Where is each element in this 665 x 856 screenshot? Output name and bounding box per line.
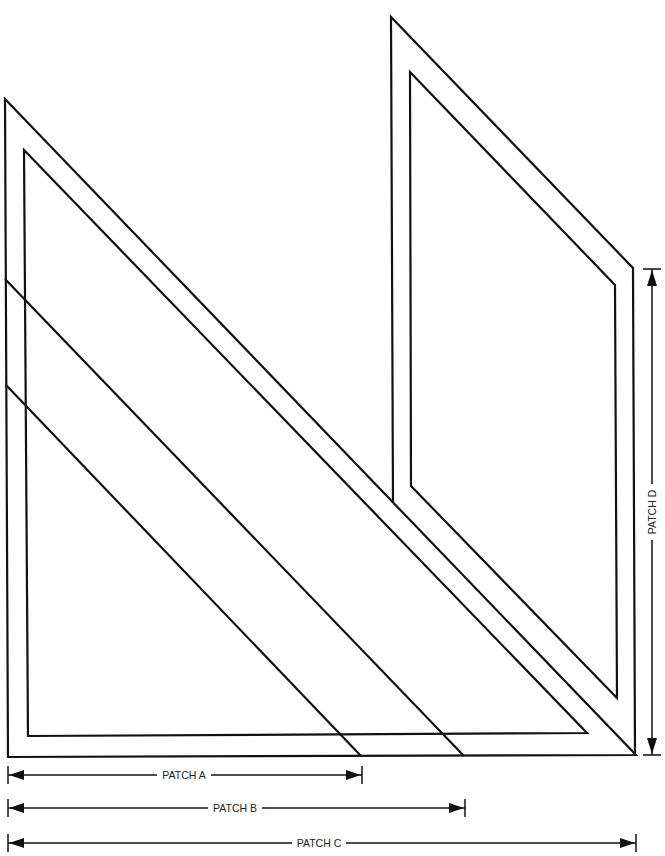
arrow-left-icon bbox=[9, 770, 24, 780]
patch-a-dimension: PATCH A bbox=[8, 766, 362, 784]
arrow-right-icon bbox=[346, 770, 361, 780]
patch-template-diagram: PATCH A PATCH B PATCH C PATCH D bbox=[0, 0, 665, 856]
patch-b-dimension: PATCH B bbox=[8, 799, 465, 817]
patch-c-dimension: PATCH C bbox=[8, 834, 636, 852]
arrow-down-icon bbox=[647, 738, 657, 754]
parallelogram-outer bbox=[391, 17, 635, 755]
patch-d-label: PATCH D bbox=[646, 489, 658, 534]
patch-c-label: PATCH C bbox=[297, 837, 342, 849]
patch-b-divider-line bbox=[5, 279, 464, 756]
parallelogram-inner bbox=[410, 72, 617, 698]
patch-a-divider-line bbox=[6, 385, 361, 756]
arrow-right-icon bbox=[449, 803, 464, 813]
large-triangle-outer bbox=[5, 99, 636, 757]
arrow-up-icon bbox=[647, 270, 657, 286]
arrow-left-icon bbox=[9, 838, 24, 848]
patch-a-label: PATCH A bbox=[162, 769, 205, 781]
arrow-right-icon bbox=[620, 838, 635, 848]
patch-b-label: PATCH B bbox=[213, 802, 257, 814]
arrow-left-icon bbox=[9, 803, 24, 813]
large-triangle-inner bbox=[24, 150, 587, 736]
patch-d-dimension: PATCH D bbox=[643, 269, 661, 755]
